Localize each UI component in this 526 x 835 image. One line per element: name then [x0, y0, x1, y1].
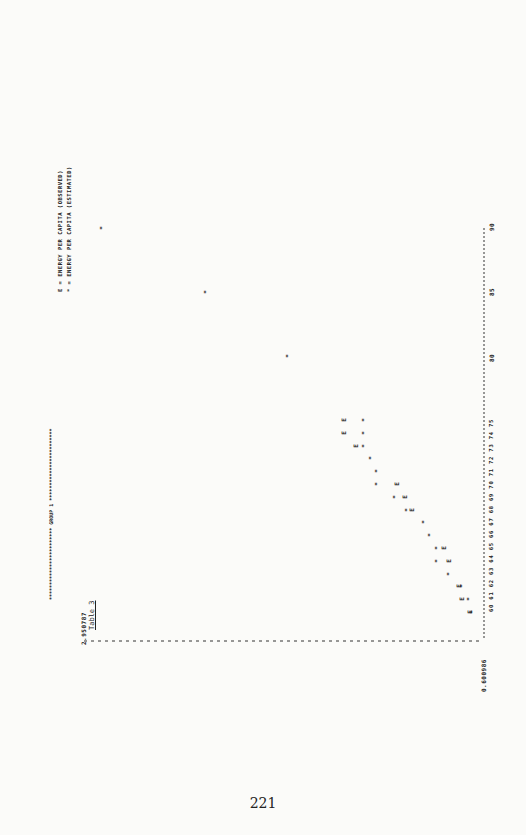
observed-point: E [459, 597, 465, 601]
observed-point: E [445, 559, 451, 563]
estimated-point: * [367, 457, 373, 461]
x-axis-tick-labels: 60 61 62 63 64 65 66 67 68 69 70 71 72 7… [488, 419, 494, 612]
estimated-point: * [203, 290, 209, 294]
observed-point: E [402, 495, 408, 499]
estimated-point: * [445, 572, 451, 576]
estimated-point: * [465, 597, 471, 601]
estimated-point: * [99, 226, 105, 230]
observed-point: E [440, 546, 446, 550]
estimated-point: * [427, 533, 433, 537]
estimated-point: * [421, 521, 427, 525]
x-tick-90: 90 [488, 223, 495, 231]
scatter-plot [0, 0, 526, 835]
estimated-point: * [374, 482, 380, 486]
estimated-point: * [469, 610, 475, 614]
observed-point: E [341, 431, 347, 435]
estimated-point: * [361, 431, 367, 435]
estimated-point: * [404, 508, 410, 512]
observed-point: E [341, 418, 347, 422]
estimated-point: * [459, 585, 465, 589]
page-number: 221 [0, 795, 526, 811]
estimated-point: * [392, 495, 398, 499]
estimated-point: * [434, 546, 440, 550]
estimated-point: * [361, 418, 367, 422]
observed-point: E [352, 444, 358, 448]
estimated-point: * [374, 469, 380, 473]
estimated-point: * [361, 444, 367, 448]
observed-point: E [394, 482, 400, 486]
x-tick-85: 85 [488, 288, 495, 296]
estimated-point: * [284, 354, 290, 358]
x-tick-80: 80 [488, 354, 495, 362]
estimated-point: * [434, 559, 440, 563]
